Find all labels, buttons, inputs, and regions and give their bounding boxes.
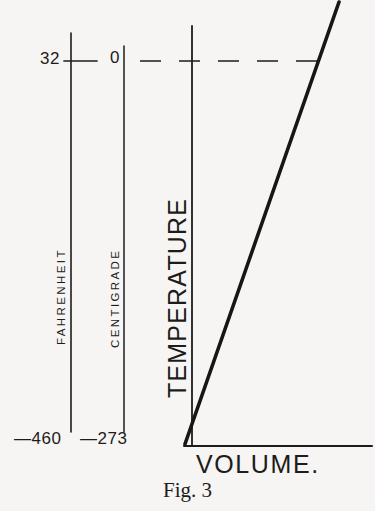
- centigrade-scale-title: CENTIGRADE: [110, 249, 122, 348]
- figure-container: 32 0 —460 —273 FAHRENHEIT CENTIGRADE TEM…: [0, 0, 375, 511]
- centigrade-top-value: 0: [110, 49, 120, 66]
- fahrenheit-scale-title: FAHRENHEIT: [56, 248, 68, 345]
- x-axis-title: VOLUME.: [196, 452, 320, 477]
- centigrade-bottom-value: —273: [80, 430, 127, 447]
- fahrenheit-bottom-value: —460: [14, 430, 61, 447]
- figure-caption: Fig. 3: [0, 480, 375, 501]
- y-axis-title: TEMPERATURE: [165, 198, 190, 398]
- fahrenheit-top-value: 32: [40, 50, 60, 67]
- data-line: [185, 2, 339, 444]
